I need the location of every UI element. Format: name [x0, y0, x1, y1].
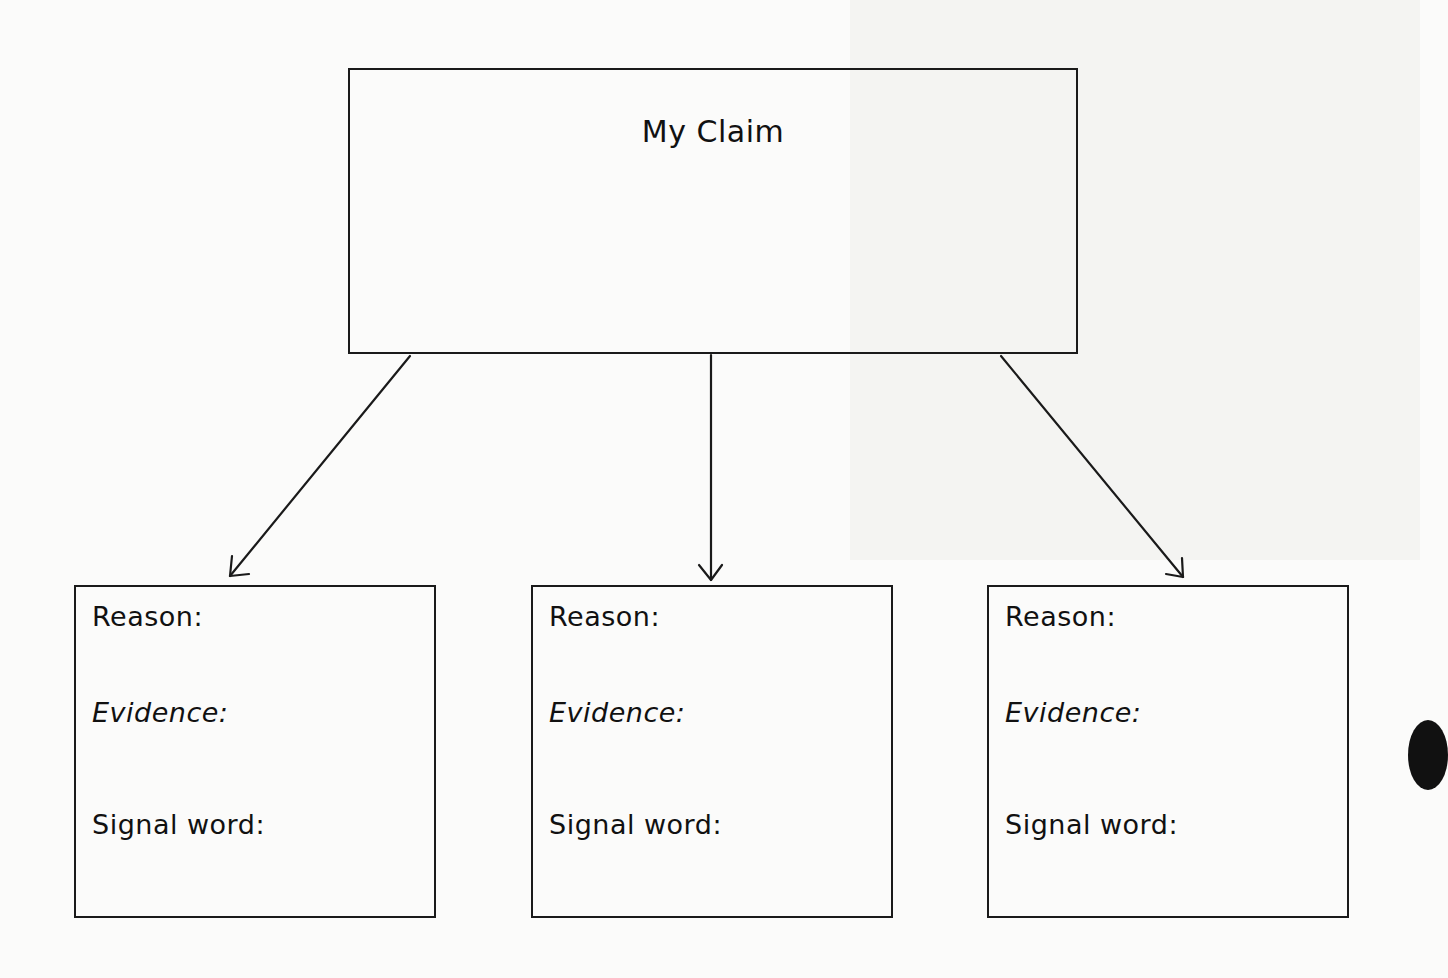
claim-title: My Claim: [350, 114, 1076, 149]
arrow-right: [1001, 356, 1183, 577]
reason-label: Reason:: [1005, 601, 1116, 632]
signal-word-label: Signal word:: [92, 809, 265, 840]
arrow-left: [230, 356, 410, 576]
signal-word-label: Signal word:: [549, 809, 722, 840]
evidence-label: Evidence:: [549, 697, 685, 728]
reason-box-1: Reason: Evidence: Signal word:: [74, 585, 436, 918]
signal-word-label: Signal word:: [1005, 809, 1178, 840]
evidence-label: Evidence:: [92, 697, 228, 728]
page-edge-tab-shape: [1408, 720, 1448, 790]
evidence-label: Evidence:: [1005, 697, 1141, 728]
reason-box-3: Reason: Evidence: Signal word:: [987, 585, 1349, 918]
claim-box: My Claim: [348, 68, 1078, 354]
reason-label: Reason:: [92, 601, 203, 632]
reason-label: Reason:: [549, 601, 660, 632]
arrow-middle: [699, 355, 722, 580]
reason-box-2: Reason: Evidence: Signal word:: [531, 585, 893, 918]
